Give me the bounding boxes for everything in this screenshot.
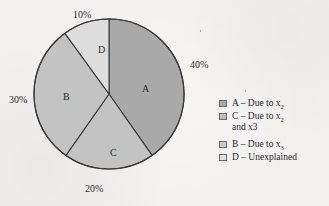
pie-svg bbox=[33, 18, 185, 170]
legend-label-b: B – Due to x3 bbox=[232, 138, 284, 150]
legend-item-d[interactable]: D – Unexplained bbox=[219, 151, 327, 163]
pie-percent-label-10: 10% bbox=[73, 10, 91, 20]
scan-speck bbox=[200, 30, 201, 32]
legend-swatch-icon-c bbox=[219, 113, 227, 120]
pie-percent-label-20: 20% bbox=[85, 184, 103, 194]
legend-swatch-icon-a bbox=[219, 100, 227, 107]
legend-item-b[interactable]: B – Due to x3 bbox=[219, 138, 327, 150]
legend-label-a: A – Due to x2 bbox=[232, 97, 284, 109]
legend-label-c-continued: and x3 bbox=[219, 122, 327, 133]
legend-swatch-icon-d bbox=[219, 154, 227, 161]
pie-percent-label-30: 30% bbox=[9, 95, 27, 105]
legend-item-c[interactable]: C – Due to x2 bbox=[219, 110, 327, 122]
pie-chart-figure: A B C D 10% 40% 30% 20% A – Due to x2 C … bbox=[0, 0, 329, 206]
pie-plot-area: A B C D 10% 40% 30% 20% bbox=[0, 0, 210, 206]
pie-slice-label-c: C bbox=[110, 148, 117, 158]
pie-slice-label-a: A bbox=[142, 84, 149, 94]
legend-item-a[interactable]: A – Due to x2 bbox=[219, 97, 327, 109]
pie-percent-label-40: 40% bbox=[190, 60, 208, 70]
legend-label-d: D – Unexplained bbox=[232, 151, 297, 163]
pie-slice-label-d: D bbox=[98, 45, 105, 55]
scan-speck bbox=[245, 90, 246, 92]
chart-legend: A – Due to x2 C – Due to x2 and x3 B – D… bbox=[219, 97, 327, 164]
legend-label-c: C – Due to x2 bbox=[232, 110, 284, 122]
legend-swatch-icon-b bbox=[219, 141, 227, 148]
pie-slice-label-b: B bbox=[63, 92, 70, 102]
